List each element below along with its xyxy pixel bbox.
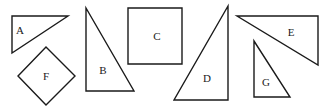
label-a: A xyxy=(16,24,24,36)
shape-a: A xyxy=(12,16,68,53)
label-b: B xyxy=(99,64,106,76)
label-e: E xyxy=(288,26,295,38)
shape-b: B xyxy=(86,8,134,91)
shape-f: F xyxy=(18,47,75,105)
shape-c: C xyxy=(128,8,182,64)
triangle-e xyxy=(237,16,318,65)
triangle-b xyxy=(86,8,134,91)
shape-g: G xyxy=(254,41,290,97)
label-d: D xyxy=(203,72,211,84)
label-f: F xyxy=(43,70,49,82)
shape-e: E xyxy=(237,16,318,65)
shapes-figure: A B C D E F G xyxy=(0,0,328,111)
triangle-g xyxy=(254,41,290,97)
label-g: G xyxy=(262,76,270,88)
label-c: C xyxy=(153,30,160,42)
